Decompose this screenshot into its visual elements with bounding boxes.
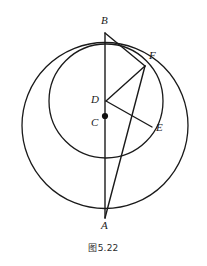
geometry-figure: B F D C E A 图5.22 (0, 0, 207, 266)
segment-af (105, 66, 145, 218)
point-markers-group (102, 113, 108, 119)
segment-de (106, 101, 152, 127)
point-label-e: E (156, 122, 163, 133)
point-label-f: F (149, 50, 156, 61)
segments-group (105, 33, 152, 218)
point-label-c: C (91, 117, 98, 128)
segment-df (106, 66, 145, 101)
point-label-d: D (91, 94, 99, 105)
figure-caption: 图5.22 (0, 241, 207, 254)
point-marker-c (102, 113, 108, 119)
point-label-a: A (101, 220, 108, 231)
point-label-b: B (101, 15, 108, 26)
